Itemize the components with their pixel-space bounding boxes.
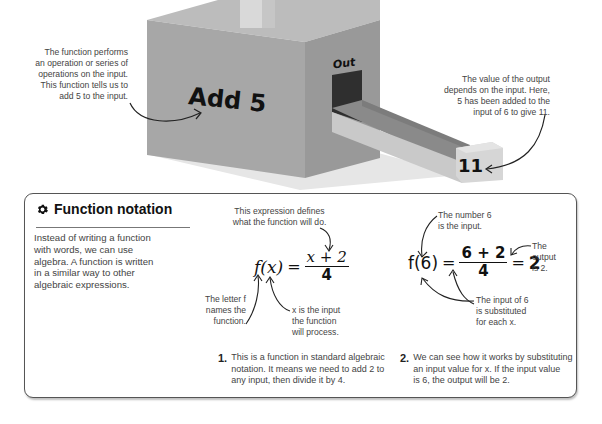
step-2: 2. We can see how it works by substituti…: [400, 352, 573, 387]
step-1: 1. This is a function in standard algebr…: [218, 352, 385, 387]
